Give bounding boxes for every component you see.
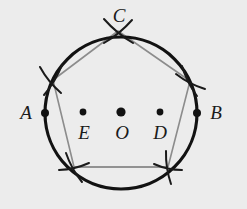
point-E [80,109,87,116]
label-D: D [152,122,167,143]
label-O: O [115,122,129,143]
label-B: B [210,102,222,123]
label-E: E [77,122,90,143]
point-B [193,109,201,117]
point-A [41,109,49,117]
label-C: C [113,5,126,26]
geometry-figure: AEODBC [0,0,247,209]
label-A: A [18,102,32,123]
point-O [116,107,125,116]
figure-canvas: AEODBC [0,0,247,209]
point-D [157,109,164,116]
